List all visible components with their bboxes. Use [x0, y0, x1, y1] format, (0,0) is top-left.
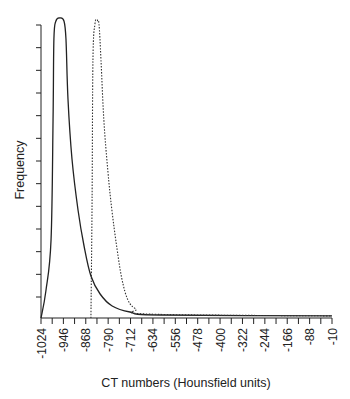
x-tick-label: -868 [79, 328, 93, 352]
x-axis-label: CT numbers (Hounsfield units) [101, 376, 270, 390]
x-tick-label: -400 [214, 328, 228, 352]
x-tick-label: -556 [169, 328, 183, 352]
x-tick-label: -166 [281, 328, 295, 352]
x-tick-label: -10 [326, 328, 340, 346]
x-axis-ticks [41, 318, 332, 324]
x-tick-label: -634 [146, 328, 160, 352]
y-axis-label: Frequency [13, 140, 27, 200]
solid-curve [41, 18, 332, 318]
dotted-curve [91, 20, 332, 318]
histogram-chart: -1024-946-868-790-712-634-556-478-400-32… [0, 0, 350, 399]
y-axis-ticks [36, 25, 41, 297]
x-tick-label: -946 [57, 328, 71, 352]
x-tick-label: -322 [236, 328, 250, 352]
x-tick-label: -244 [258, 328, 272, 352]
x-tick-label: -88 [303, 328, 317, 346]
x-tick-label: -790 [102, 328, 116, 352]
x-tick-labels: -1024-946-868-790-712-634-556-478-400-32… [35, 328, 340, 359]
x-tick-label: -1024 [35, 328, 49, 359]
x-tick-label: -478 [191, 328, 205, 352]
x-tick-label: -712 [124, 328, 138, 352]
